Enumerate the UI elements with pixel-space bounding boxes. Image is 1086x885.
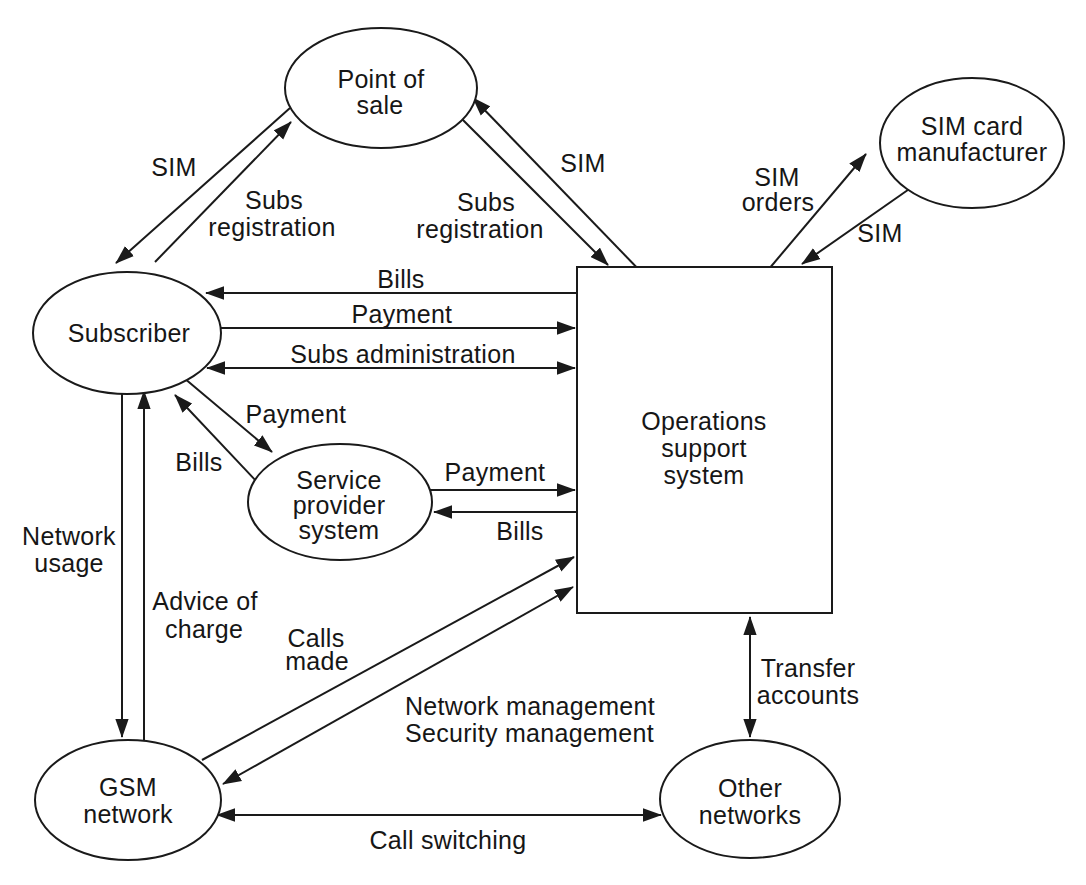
node-sps-label-line2: provider: [293, 491, 386, 519]
label-subs-registration-right-line1: Subs: [457, 188, 515, 216]
node-sps-label-line1: Service: [296, 466, 381, 494]
label-sim-oss-pos: SIM: [560, 149, 605, 177]
label-network-management: Network management: [405, 692, 655, 720]
label-advice-of-charge-line2: charge: [165, 615, 243, 643]
node-other-networks-label-line2: networks: [699, 801, 801, 829]
label-calls-made-line2: made: [285, 647, 349, 675]
edge-network-security-management-two-way: [223, 587, 573, 784]
label-sim-manufacturer-oss: SIM: [857, 219, 902, 247]
label-sim-pos-subscriber: SIM: [151, 153, 196, 181]
node-oss-label-line2: support: [661, 434, 747, 462]
node-oss-label-line1: Operations: [641, 407, 766, 435]
label-advice-of-charge-line1: Advice of: [152, 587, 258, 615]
label-bills-oss-sps: Bills: [496, 517, 543, 545]
node-point-of-sale-label-line1: Point of: [337, 65, 424, 93]
label-payment-subscriber-sps: Payment: [246, 400, 347, 428]
node-subscriber-label: Subscriber: [68, 319, 191, 347]
node-oss-label-line3: system: [664, 461, 745, 489]
label-bills-sps-subscriber: Bills: [175, 448, 222, 476]
node-sps-label-line3: system: [299, 516, 380, 544]
label-bills-oss-subscriber: Bills: [377, 265, 424, 293]
label-payment-subscriber-oss: Payment: [352, 300, 453, 328]
node-other-networks-label-line1: Other: [718, 774, 782, 802]
gsm-oss-context-diagram: Point of sale SIM card manufacturer Subs…: [0, 0, 1086, 885]
node-gsm-network-label-line1: GSM: [99, 773, 157, 801]
edge-sim-oss-to-pos: [473, 98, 645, 276]
label-sim-orders-line1: SIM: [754, 163, 799, 191]
label-transfer-accounts-line2: accounts: [757, 681, 859, 709]
label-sim-orders-line2: orders: [742, 188, 815, 216]
label-network-usage-line2: usage: [34, 549, 104, 577]
label-subs-registration-left-line1: Subs: [245, 186, 303, 214]
label-subs-registration-left-line2: registration: [208, 213, 335, 241]
diagram-canvas: Point of sale SIM card manufacturer Subs…: [0, 0, 1086, 885]
node-sim-card-manufacturer-label-line2: manufacturer: [897, 138, 1048, 166]
label-security-management: Security management: [405, 719, 654, 747]
label-call-switching: Call switching: [369, 826, 526, 854]
node-point-of-sale-label-line2: sale: [356, 91, 403, 119]
label-network-usage-line1: Network: [22, 522, 116, 550]
label-transfer-accounts-line1: Transfer: [761, 654, 856, 682]
node-gsm-network-label-line2: network: [83, 800, 173, 828]
node-sim-card-manufacturer-label-line1: SIM card: [921, 112, 1023, 140]
label-subs-administration: Subs administration: [290, 340, 515, 368]
label-payment-sps-oss: Payment: [445, 458, 546, 486]
label-subs-registration-right-line2: registration: [416, 215, 543, 243]
